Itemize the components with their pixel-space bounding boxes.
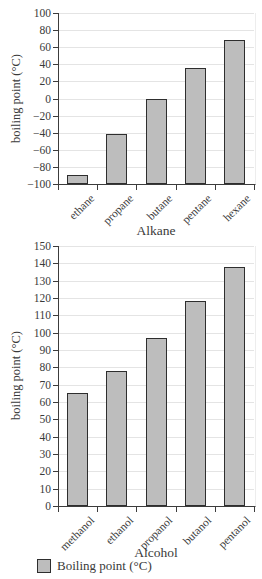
bar-butanol [185,301,206,506]
x-tick-mark [176,185,177,190]
gridline [58,263,254,264]
legend: Boiling point (°C) [37,558,152,574]
x-tick-mark [136,185,137,190]
y-tick-mark [53,150,58,151]
bar-propane [106,134,127,184]
y-tick-mark [53,350,58,351]
y-tick-mark [53,385,58,386]
legend-label: Boiling point (°C) [57,558,152,574]
y-tick-mark [53,471,58,472]
y-tick-mark [53,13,58,14]
x-tick-mark [136,507,137,512]
x-tick-mark [176,507,177,512]
gridline [58,30,254,31]
y-tick-mark [53,454,58,455]
y-tick-mark [53,367,58,368]
y-tick-mark [53,333,58,334]
y-tick-mark [53,81,58,82]
x-tick-mark [58,185,59,190]
y-tick-mark [53,298,58,299]
y-tick-mark [53,116,58,117]
y-tick-mark [53,419,58,420]
bar-ethanol [106,371,127,506]
y-axis-title: boiling point (°C) [9,13,24,184]
alcohol-boiling-point-chart: 1501401301201101009080706050403020100met… [0,240,262,579]
bar-butane [146,99,167,184]
x-tick-mark [58,507,59,512]
x-tick-mark [254,507,255,512]
y-tick-mark [53,315,58,316]
bar-propanol [146,338,167,506]
bar-hexane [224,40,245,184]
gridline [58,246,254,247]
x-tick-mark [254,185,255,190]
y-tick-mark [53,281,58,282]
x-tick-mark [97,185,98,190]
y-tick-mark [53,133,58,134]
y-tick-mark [53,437,58,438]
gridline [58,13,254,14]
legend-swatch-icon [37,559,51,573]
bar-methanol [67,393,88,506]
y-tick-mark [53,246,58,247]
y-tick-mark [53,30,58,31]
y-tick-mark [53,167,58,168]
bar-pentane [185,68,206,184]
y-tick-mark [53,402,58,403]
x-axis-title: Alkane [58,223,254,239]
bar-ethane [67,175,88,184]
x-tick-mark [97,507,98,512]
y-tick-mark [53,263,58,264]
alkane-boiling-point-chart: 100806040200−20−40−60−80−100ethanepropan… [0,0,262,240]
x-tick-mark [215,507,216,512]
page: 100806040200−20−40−60−80−100ethanepropan… [0,0,262,579]
y-tick-mark [53,64,58,65]
x-tick-mark [215,185,216,190]
y-axis-title: boiling point (°C) [9,246,24,506]
bar-pentanol [224,267,245,506]
y-tick-mark [53,489,58,490]
y-tick-mark [53,47,58,48]
y-tick-mark [53,99,58,100]
